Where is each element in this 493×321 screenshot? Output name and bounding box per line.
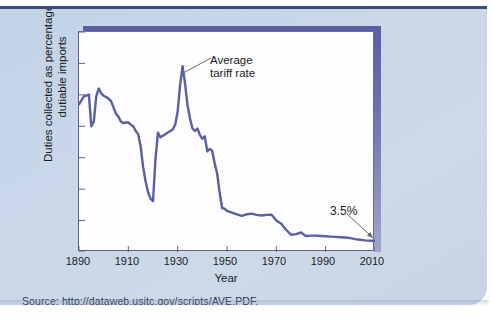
frame-right-bar [374,26,381,252]
x-tick-label: 1930 [154,255,198,267]
annotation-final-value: 3.5% [330,205,357,218]
x-tick-label: 1990 [301,255,345,267]
x-tick-label: 1970 [252,255,296,267]
annotation-leader-average [185,58,211,72]
x-tick-label: 1910 [105,255,149,267]
panel-drop-shadow [0,300,489,306]
y-axis-label: Duties collected as percentage of dutiab… [41,9,69,166]
x-tick-label: 2010 [350,255,394,267]
x-tick-label: 1950 [203,255,247,267]
annotation-average-tariff-rate: Average tariff rate [210,54,255,80]
figure-panel: 70 60 50 40 30 20 10 0 Duties collected … [0,9,487,305]
x-tick-label: 1890 [56,255,100,267]
x-axis-label: Year [78,272,374,284]
